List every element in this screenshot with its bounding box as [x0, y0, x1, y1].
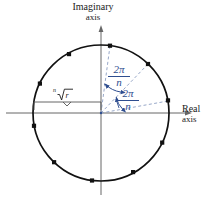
radical-index: n [53, 87, 56, 93]
origin-point [100, 112, 102, 114]
radius-label: n r [52, 86, 76, 102]
brace-center-notch [63, 102, 71, 106]
real-axis-label: Real axis [182, 104, 209, 124]
root-point [108, 44, 112, 48]
real-axis-label-line2: axis [182, 115, 209, 124]
imaginary-axis-label: Imaginary axis [62, 2, 124, 22]
root-point [131, 170, 135, 174]
nth-root-icon: n r [52, 86, 76, 102]
angle-label-outer-numerator: 2π [108, 64, 130, 75]
root-point [67, 52, 71, 56]
real-axis-label-line1: Real [182, 103, 200, 114]
root-point [90, 178, 94, 182]
radicand: r [66, 91, 70, 100]
root-point [166, 98, 170, 102]
root-point [38, 82, 42, 86]
angle-label-inner-denominator: n [117, 101, 139, 112]
root-point [52, 160, 56, 164]
imaginary-axis-label-line2: axis [62, 13, 124, 22]
root-point [146, 62, 150, 66]
root-point [160, 141, 164, 145]
angle-label-inner-numerator: 2π [117, 88, 139, 99]
radius-measure-brace [34, 102, 101, 110]
angle-label-outer: 2π n [108, 64, 130, 88]
complex-plane-figure [0, 0, 209, 216]
imaginary-axis-label-line1: Imaginary [72, 1, 113, 12]
angle-label-inner: 2π n [117, 88, 139, 112]
imaginary-axis-arrowhead [99, 25, 104, 32]
root-point [32, 124, 36, 128]
